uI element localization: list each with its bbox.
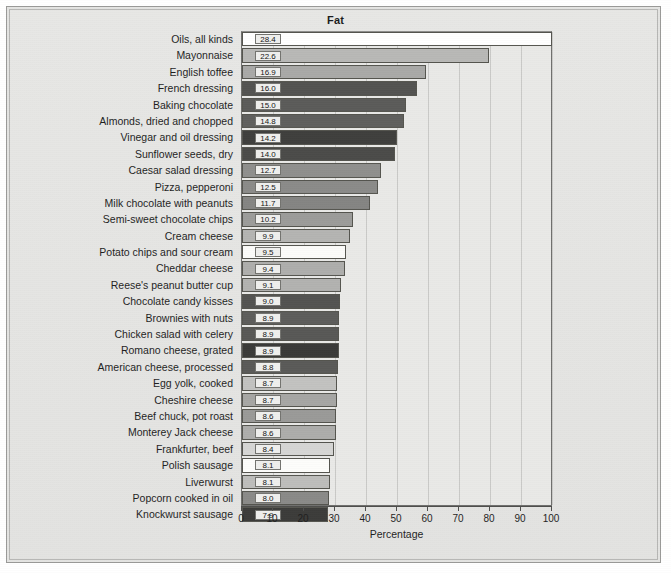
x-axis: 0102030405060708090100	[241, 506, 552, 507]
bar-track: 8.9	[242, 327, 552, 341]
category-label: Cheshire cheese	[0, 392, 233, 408]
x-axis-tick	[520, 506, 521, 511]
bar-row[interactable]: Chicken salad with celery8.9	[0, 326, 671, 342]
category-label: Almonds, dried and chopped	[0, 113, 233, 129]
bar-value-label: 9.0	[255, 296, 281, 306]
category-label: Egg yolk, cooked	[0, 375, 233, 391]
bar-row[interactable]: Frankfurter, beef8.4	[0, 441, 671, 457]
bar-value-label: 16.0	[255, 83, 281, 93]
bar-value-label: 8.7	[255, 378, 281, 388]
category-label: Monterey Jack cheese	[0, 424, 233, 440]
category-label: Romano cheese, grated	[0, 342, 233, 358]
bar-value-label: 8.1	[255, 460, 281, 470]
bar-track: 9.9	[242, 229, 552, 243]
bar-row[interactable]: Beef chuck, pot roast8.6	[0, 408, 671, 424]
category-label: Baking chocolate	[0, 97, 233, 113]
bar-row[interactable]: Vinegar and oil dressing14.2	[0, 129, 671, 145]
category-label: French dressing	[0, 80, 233, 96]
bar-value-label: 8.4	[255, 444, 281, 454]
chart-title: Fat	[0, 14, 671, 26]
category-label: Mayonnaise	[0, 47, 233, 63]
bar-value-label: 16.9	[255, 67, 281, 77]
bar-track: 8.7	[242, 376, 552, 390]
category-label: Cheddar cheese	[0, 260, 233, 276]
category-label: American cheese, processed	[0, 359, 233, 375]
x-axis-tick	[427, 506, 428, 511]
bar-row[interactable]: Monterey Jack cheese8.6	[0, 424, 671, 440]
bar-row[interactable]: Sunflower seeds, dry14.0	[0, 146, 671, 162]
bar-row[interactable]: Baking chocolate15.0	[0, 97, 671, 113]
x-axis-tick	[241, 506, 242, 511]
bar-row[interactable]: Almonds, dried and chopped14.8	[0, 113, 671, 129]
category-label: Pizza, pepperoni	[0, 179, 233, 195]
bar-row[interactable]: English toffee16.9	[0, 64, 671, 80]
category-label: Beef chuck, pot roast	[0, 408, 233, 424]
bar-value-label: 14.0	[255, 149, 281, 159]
bar-track: 11.7	[242, 196, 552, 210]
bar-row[interactable]: Polish sausage8.1	[0, 457, 671, 473]
bar-value-label: 12.5	[255, 182, 281, 192]
bar-value-label: 22.6	[255, 51, 281, 61]
bar-track: 9.5	[242, 245, 552, 259]
bar-row[interactable]: Semi-sweet chocolate chips10.2	[0, 211, 671, 227]
bar-value-label: 28.4	[255, 34, 281, 44]
category-label: Chocolate candy kisses	[0, 293, 233, 309]
x-axis-tick-label: 30	[328, 513, 339, 524]
bar-row[interactable]: French dressing16.0	[0, 80, 671, 96]
bar-row[interactable]: Liverwurst8.1	[0, 474, 671, 490]
bar-row[interactable]: Cream cheese9.9	[0, 228, 671, 244]
category-label: English toffee	[0, 64, 233, 80]
bar-track: 8.7	[242, 393, 552, 407]
bar-row[interactable]: Chocolate candy kisses9.0	[0, 293, 671, 309]
bar-row[interactable]: Cheddar cheese9.4	[0, 260, 671, 276]
x-axis-tick-label: 90	[514, 513, 525, 524]
x-axis-tick-label: 40	[359, 513, 370, 524]
bar-value-label: 9.5	[255, 247, 281, 257]
bar-row[interactable]: Caesar salad dressing12.7	[0, 162, 671, 178]
bar-row[interactable]: Pizza, pepperoni12.5	[0, 179, 671, 195]
bar-value-label: 9.1	[255, 280, 281, 290]
bar-row[interactable]: Reese's peanut butter cup9.1	[0, 277, 671, 293]
x-axis-tick-label: 70	[452, 513, 463, 524]
bar-track: 8.6	[242, 425, 552, 439]
category-label: Vinegar and oil dressing	[0, 129, 233, 145]
bar-track: 8.1	[242, 458, 552, 472]
chart-screenshot: Fat Oils, all kinds28.4Mayonnaise22.6Eng…	[0, 0, 671, 573]
bar-track: 14.2	[242, 130, 552, 144]
bar-value-label: 8.0	[255, 493, 281, 503]
bar-value-label: 8.8	[255, 362, 281, 372]
bar-track: 9.1	[242, 278, 552, 292]
bar-row[interactable]: American cheese, processed8.8	[0, 359, 671, 375]
bar[interactable]	[242, 32, 552, 46]
category-label: Milk chocolate with peanuts	[0, 195, 233, 211]
x-axis-tick	[551, 506, 552, 511]
bar-row[interactable]: Popcorn cooked in oil8.0	[0, 490, 671, 506]
category-label: Liverwurst	[0, 474, 233, 490]
bar-row[interactable]: Mayonnaise22.6	[0, 47, 671, 63]
x-axis-tick-label: 100	[543, 513, 560, 524]
bar-row[interactable]: Egg yolk, cooked8.7	[0, 375, 671, 391]
category-label: Semi-sweet chocolate chips	[0, 211, 233, 227]
bar-value-label: 10.2	[255, 214, 281, 224]
bar-track: 14.8	[242, 114, 552, 128]
x-axis-tick	[334, 506, 335, 511]
bar-row[interactable]: Cheshire cheese8.7	[0, 392, 671, 408]
bar-value-label: 8.9	[255, 313, 281, 323]
bar-value-label: 15.0	[255, 100, 281, 110]
bar-value-label: 8.9	[255, 346, 281, 356]
bar-row[interactable]: Potato chips and sour cream9.5	[0, 244, 671, 260]
bar-track: 8.9	[242, 343, 552, 357]
bar-track: 9.4	[242, 261, 552, 275]
bar-row[interactable]: Oils, all kinds28.4	[0, 31, 671, 47]
bar-row[interactable]: Brownies with nuts8.9	[0, 310, 671, 326]
bar-value-label: 11.7	[255, 198, 281, 208]
category-label: Popcorn cooked in oil	[0, 490, 233, 506]
x-axis-tick-label: 80	[483, 513, 494, 524]
x-axis-tick-label: 20	[297, 513, 308, 524]
bar-value-label: 9.9	[255, 231, 281, 241]
category-label: Sunflower seeds, dry	[0, 146, 233, 162]
bar-row[interactable]: Milk chocolate with peanuts11.7	[0, 195, 671, 211]
bar-track: 8.0	[242, 491, 552, 505]
bar-row[interactable]: Romano cheese, grated8.9	[0, 342, 671, 358]
x-axis-tick	[365, 506, 366, 511]
